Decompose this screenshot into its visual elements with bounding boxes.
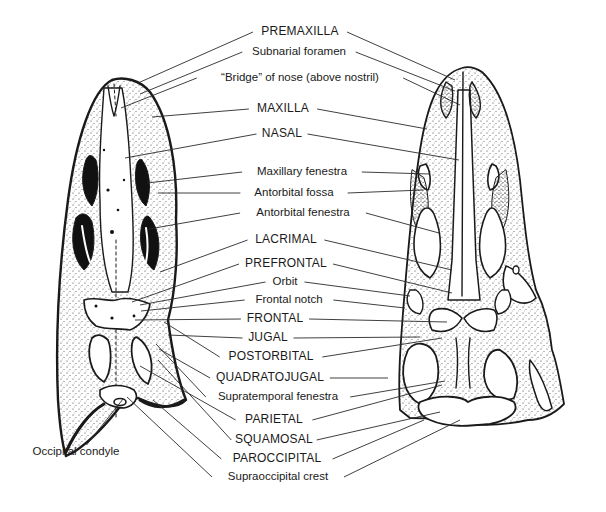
label-nasal: NASAL [262, 127, 302, 140]
right-skull [399, 67, 564, 426]
label-occipital-condyle: Occipital condyle [33, 445, 120, 458]
label-subnarial-foramen: Subnarial foramen [252, 45, 346, 58]
label-frontal-notch: Frontal notch [255, 293, 322, 306]
left-skull [57, 79, 186, 457]
label-jugal: JUGAL [248, 331, 288, 344]
label-antorbital-fossa: Antorbital fossa [254, 186, 333, 199]
leader-supraoccipital-crest-left [127, 397, 212, 477]
leader-jugal-left [168, 335, 243, 338]
leader-maxilla-right [317, 109, 427, 129]
label-postorbital: POSTORBITAL [228, 350, 313, 363]
label-supratemporal-fenestra: Supratemporal fenestra [218, 390, 338, 403]
leader-frontal-notch-right [333, 300, 405, 308]
label-paroccipital: PAROCCIPITAL [233, 452, 322, 465]
leader-maxilla-left [152, 109, 249, 117]
label-antorbital-fenestra: Antorbital fenestra [256, 206, 349, 219]
label-parietal: PARIETAL [245, 413, 303, 426]
label-supraoccipital-crest: Supraoccipital crest [228, 470, 328, 483]
label-quadratojugal: QUADRATOJUGAL [216, 371, 324, 384]
label-orbit: Orbit [273, 275, 298, 288]
label-squamosal: SQUAMOSAL [235, 433, 313, 446]
leader-paroccipital-left [153, 400, 221, 459]
label-bridge-of-nose: “Bridge” of nose (above nostril) [221, 71, 379, 84]
label-premaxilla: PREMAXILLA [261, 25, 338, 38]
skull-diagram: PREMAXILLASubnarial foramen“Bridge” of n… [0, 0, 606, 512]
label-lacrimal: LACRIMAL [255, 233, 317, 246]
label-maxilla: MAXILLA [257, 102, 309, 115]
leader-squamosal-right [317, 412, 440, 440]
label-prefrontal: PREFRONTAL [245, 257, 327, 270]
label-maxillary-fenestra: Maxillary fenestra [257, 165, 347, 178]
label-frontal: FRONTAL [247, 312, 304, 325]
leader-supraoccipital-crest-right [344, 420, 460, 477]
